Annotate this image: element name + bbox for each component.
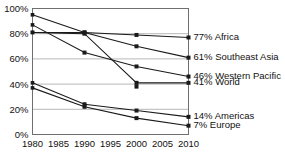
x-tick-label: 2010 (178, 138, 199, 149)
data-point-marker (83, 105, 87, 109)
data-point-marker (135, 109, 139, 113)
x-tick-label: 2005 (152, 138, 173, 149)
data-point-marker (187, 56, 191, 60)
series-end-labels: 77% Africa61% Southeast Asia46% Western … (194, 31, 282, 130)
series-line (33, 83, 189, 117)
x-tick-label: 2000 (126, 138, 147, 149)
x-tick-label: 1980 (22, 138, 43, 149)
data-point-marker (31, 86, 35, 90)
series-line (33, 88, 189, 126)
data-point-marker (135, 81, 139, 85)
x-tick-label: 1995 (100, 138, 121, 149)
y-tick-label: 40% (9, 79, 29, 90)
series-end-label: 77% Africa (194, 31, 240, 42)
data-point-marker (135, 116, 139, 120)
data-point-marker (31, 23, 35, 27)
x-axis-ticks: 1980198519901995200020052010 (22, 138, 199, 149)
data-point-marker (187, 81, 191, 85)
data-point-marker (31, 81, 35, 85)
isolated-data-point-marker (135, 85, 139, 89)
series-end-label: 41% World (194, 76, 240, 87)
y-tick-label: 20% (9, 104, 29, 115)
data-point-marker (187, 115, 191, 119)
data-point-marker (31, 31, 35, 35)
data-point-marker (83, 51, 87, 55)
data-point-marker (187, 75, 191, 79)
series-line (33, 32, 189, 82)
y-tick-label: 80% (9, 28, 29, 39)
line-chart: 0%20%40%60%80%100% 198019851990199520002… (0, 0, 285, 153)
series-end-label: 7% Europe (194, 119, 241, 130)
data-point-marker (83, 32, 87, 36)
x-tick-label: 1990 (74, 138, 95, 149)
data-point-marker (31, 13, 35, 17)
x-tick-label: 1985 (48, 138, 69, 149)
series-markers-group (31, 13, 191, 128)
y-axis-ticks: 0%20%40%60%80%100% (4, 3, 29, 140)
data-point-marker (135, 33, 139, 37)
data-point-marker (187, 124, 191, 128)
data-point-marker (135, 64, 139, 68)
data-point-marker (135, 44, 139, 48)
chart-canvas: 0%20%40%60%80%100% 198019851990199520002… (0, 0, 285, 153)
y-tick-label: 100% (4, 3, 29, 14)
y-tick-label: 60% (9, 53, 29, 64)
series-end-label: 61% Southeast Asia (194, 51, 280, 62)
data-point-marker (187, 35, 191, 39)
